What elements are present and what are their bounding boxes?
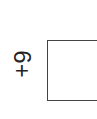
expression-label: 6+ [7, 44, 37, 84]
answer-box[interactable] [47, 40, 97, 101]
